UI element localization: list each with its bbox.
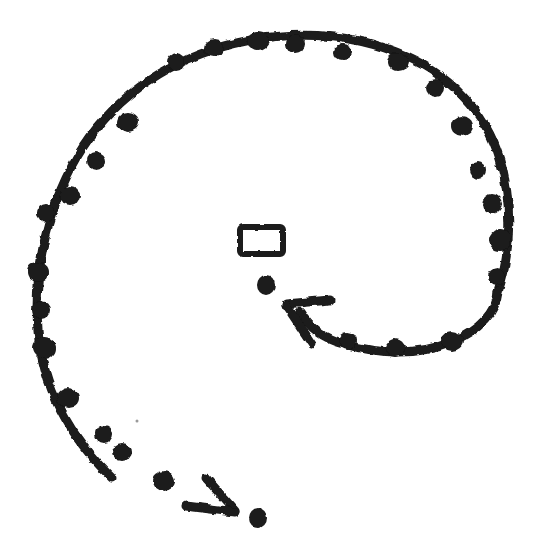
ink-speck	[136, 420, 139, 423]
spiral-knot	[247, 32, 269, 50]
spiral-knot	[488, 268, 506, 286]
spiral-knot	[57, 388, 79, 408]
spiral-knot	[95, 425, 113, 443]
spiral-knot	[482, 194, 502, 214]
spiral-knot	[32, 301, 50, 319]
arrow-inner-upper-barb	[286, 300, 330, 304]
spiral-knot	[285, 35, 305, 53]
sketch-canvas: Hand-drawn spiral with arrows	[0, 0, 538, 559]
sketch-svg	[0, 0, 538, 559]
center-blob	[257, 275, 275, 295]
spiral-knot	[37, 204, 55, 222]
spiral-knot	[87, 152, 105, 170]
spiral-knot	[60, 187, 80, 205]
arrow-tail-lower-barb	[186, 506, 235, 512]
spiral-knot	[427, 79, 445, 97]
spiral-knot	[387, 53, 409, 71]
spiral-knot	[32, 337, 56, 359]
spiral-knot	[470, 161, 486, 179]
spiral-knot	[27, 262, 49, 282]
tail-blob	[249, 508, 267, 528]
spiral-knot	[167, 53, 185, 71]
spiral-knot	[153, 471, 175, 491]
spiral-knot	[489, 229, 511, 251]
spiral-knot	[385, 339, 405, 357]
spiral-knot	[334, 44, 352, 60]
spiral-knot	[117, 112, 139, 132]
spiral-knot	[451, 116, 473, 136]
spiral-knot	[112, 443, 132, 461]
spiral-knot	[339, 332, 357, 350]
spiral-knot	[441, 331, 463, 351]
spiral-knot	[204, 39, 224, 57]
